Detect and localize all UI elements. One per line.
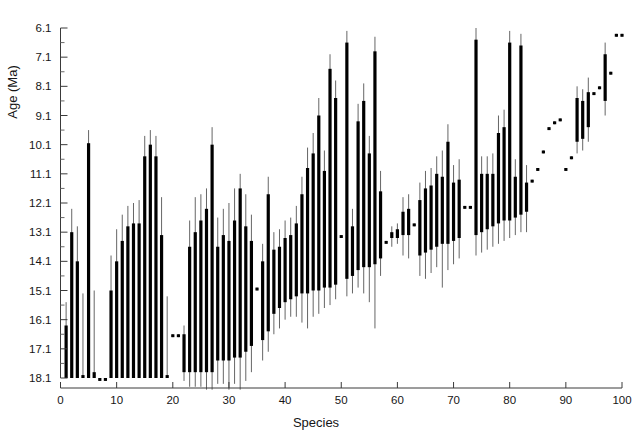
species-bar — [390, 226, 393, 246]
species-bar — [267, 177, 270, 352]
species-bar — [255, 288, 258, 291]
species-age-range-chart — [0, 0, 632, 441]
species-bar — [115, 229, 118, 378]
species-bar — [581, 89, 584, 150]
species-bar — [458, 159, 461, 258]
species-bar — [261, 244, 264, 361]
species-bar — [154, 136, 157, 378]
species-bar — [547, 127, 550, 130]
species-bar — [109, 256, 112, 379]
species-bar — [604, 43, 607, 116]
species-bar — [446, 124, 449, 270]
species-bar — [272, 232, 275, 334]
species-bar — [598, 86, 601, 89]
species-bar — [531, 180, 534, 183]
species-bar — [306, 148, 309, 329]
species-bar — [300, 177, 303, 323]
y-axis-tick-label: 13.1 — [29, 226, 51, 238]
species-bar — [474, 28, 477, 256]
species-bar — [559, 118, 562, 121]
species-bar — [480, 156, 483, 252]
y-axis-tick-label: 17.1 — [29, 343, 51, 355]
species-bar — [149, 130, 152, 378]
species-bar — [615, 34, 618, 37]
species-bar — [519, 34, 522, 232]
species-bar — [486, 156, 489, 249]
species-bar — [328, 54, 331, 305]
species-bar — [508, 31, 511, 238]
species-bar — [278, 229, 281, 328]
chart-page: 6.17.18.19.110.111.112.113.114.115.116.1… — [0, 0, 632, 441]
species-bar — [205, 188, 208, 389]
species-bar — [407, 194, 410, 258]
species-bar — [323, 151, 326, 309]
species-bar — [385, 241, 388, 244]
species-bar — [424, 171, 427, 279]
species-bar — [334, 81, 337, 300]
species-bar — [166, 296, 169, 378]
species-bar — [373, 37, 376, 329]
species-bar — [592, 92, 595, 95]
species-bar — [284, 221, 287, 320]
y-axis-tick-label: 14.1 — [29, 255, 51, 267]
y-axis-tick-label: 8.1 — [36, 80, 52, 92]
x-axis-tick-label: 10 — [110, 394, 123, 406]
species-bar — [138, 200, 141, 378]
x-axis-tick-label: 100 — [612, 394, 631, 406]
species-bar — [132, 203, 135, 378]
x-axis-tick-label: 80 — [503, 394, 516, 406]
species-bar — [182, 326, 185, 381]
x-axis-tick-label: 40 — [279, 394, 292, 406]
species-bar — [502, 110, 505, 241]
species-bar — [239, 174, 242, 390]
species-bar — [211, 127, 214, 390]
species-bar — [463, 206, 466, 209]
y-axis-tick-label: 9.1 — [36, 110, 52, 122]
species-bar — [216, 218, 219, 384]
species-bar — [514, 159, 517, 235]
x-axis-tick-label: 70 — [447, 394, 460, 406]
x-axis-tick-label: 50 — [335, 394, 348, 406]
x-axis-tick-label: 90 — [559, 394, 572, 406]
species-bar — [317, 98, 320, 314]
species-bar — [536, 168, 539, 171]
species-bar — [368, 136, 371, 302]
species-bar — [491, 153, 494, 246]
y-axis-tick-label: 6.1 — [36, 22, 52, 34]
species-bar — [396, 223, 399, 243]
species-bar — [609, 72, 612, 75]
species-bar — [351, 209, 354, 294]
species-bar — [413, 223, 416, 226]
species-bar — [65, 302, 68, 378]
y-axis-tick-label: 18.1 — [29, 372, 51, 384]
species-bar — [620, 34, 623, 37]
x-axis-tick-label: 60 — [391, 394, 404, 406]
species-bar — [587, 78, 590, 142]
species-bar — [289, 218, 292, 317]
species-bar — [81, 293, 84, 378]
species-bar — [227, 203, 230, 390]
y-axis-tick-label: 10.1 — [29, 139, 51, 151]
species-bar — [194, 197, 197, 387]
species-bar — [143, 136, 146, 378]
species-bar — [222, 209, 225, 384]
x-axis-tick-label: 20 — [166, 394, 179, 406]
species-bar — [312, 133, 315, 317]
species-bar — [469, 206, 472, 209]
species-bar — [126, 206, 129, 378]
species-bar — [575, 86, 578, 153]
species-bar — [340, 235, 343, 238]
y-axis-tick-label: 16.1 — [29, 314, 51, 326]
species-bar — [171, 334, 174, 337]
species-bar — [429, 168, 432, 273]
species-bar — [356, 104, 359, 288]
x-axis-tick-label: 0 — [57, 394, 63, 406]
species-bar — [160, 197, 163, 378]
species-bar — [553, 121, 556, 124]
species-bar — [233, 188, 236, 383]
species-bar — [379, 171, 382, 276]
y-axis-tick-label: 12.1 — [29, 197, 51, 209]
y-axis-title: Age (Ma) — [5, 32, 20, 152]
species-bar — [250, 215, 253, 372]
species-bar — [104, 378, 107, 381]
